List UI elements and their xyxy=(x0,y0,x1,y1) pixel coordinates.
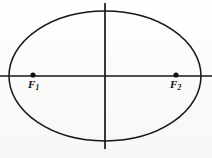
focus-2-label-subscript: 2 xyxy=(178,83,182,92)
focus-1-dot xyxy=(30,72,35,77)
focus-1-label: F1 xyxy=(28,79,39,91)
focus-1-label-base: F xyxy=(28,78,35,90)
focus-2-label-base: F xyxy=(170,78,177,90)
focus-2-dot xyxy=(173,72,178,77)
focus-2-label: F2 xyxy=(170,79,181,91)
ellipse-figure: F1 F2 xyxy=(0,0,212,158)
focus-1-label-subscript: 1 xyxy=(36,83,40,92)
